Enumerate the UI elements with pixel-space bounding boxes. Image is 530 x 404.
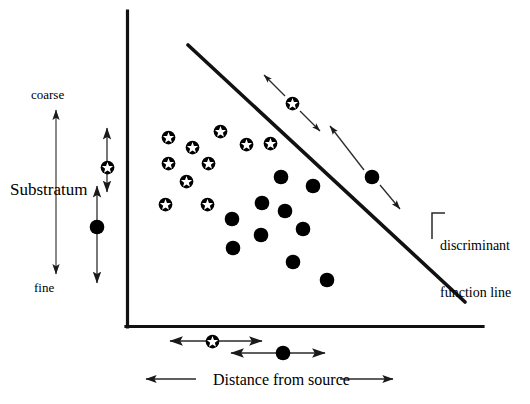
data-point-star (159, 198, 173, 212)
legend-symbol-star-y (101, 161, 115, 175)
data-point-star (201, 198, 215, 212)
data-point-circle (225, 212, 240, 227)
y-axis-bottom-label: fine (34, 281, 54, 296)
y-axis-top-label: coarse (31, 88, 64, 103)
legend-symbol-star-x (206, 335, 220, 349)
data-point-star-outlier (286, 97, 300, 111)
data-point-circle (320, 273, 335, 288)
series-filled-circle (225, 170, 380, 288)
discriminant-line-annotation: discriminant function line (440, 207, 511, 332)
data-point-star (162, 131, 176, 145)
series-star-in-circle (159, 97, 300, 212)
data-point-circle (286, 255, 301, 270)
data-point-circle (306, 179, 321, 194)
data-point-star (264, 137, 278, 151)
x-axis-title: Distance from source (213, 371, 350, 389)
discriminant-annotation-line1: discriminant (440, 238, 511, 254)
offset-arrow-circle (330, 126, 400, 209)
data-point-star (162, 157, 176, 171)
data-point-circle (296, 222, 311, 237)
plot-axes (126, 11, 483, 327)
data-point-circle (274, 170, 289, 185)
discriminant-function-figure: coarse fine Substratum Distance from sou… (0, 0, 530, 404)
data-point-circle (255, 196, 270, 211)
data-point-star (214, 125, 228, 139)
data-point-star (180, 175, 194, 189)
y-axis-title: Substratum (10, 180, 87, 199)
legend-symbol-circle-x (276, 346, 291, 361)
data-point-circle (254, 228, 269, 243)
figure-canvas (0, 0, 530, 404)
discriminant-annotation-line2: function line (440, 285, 511, 301)
data-point-circle-outlier (365, 170, 380, 185)
data-point-circle (226, 241, 241, 256)
data-point-star (186, 141, 200, 155)
data-point-star (202, 157, 216, 171)
data-point-circle (278, 204, 293, 219)
discriminant-function-line (188, 45, 465, 302)
legend-symbol-circle-y (90, 220, 105, 235)
data-point-star (240, 138, 254, 152)
